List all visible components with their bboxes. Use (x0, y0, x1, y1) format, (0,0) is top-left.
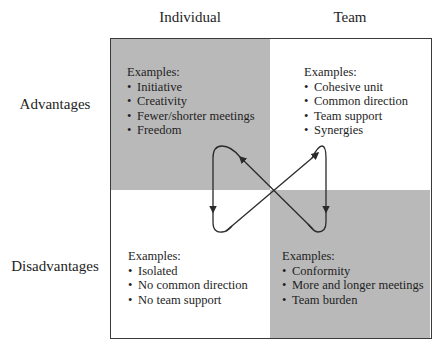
list-item: More and longer meetings (282, 278, 424, 293)
examples-team-disadvantages: Examples: Conformity More and longer mee… (282, 249, 424, 307)
list-item: No team support (128, 293, 248, 308)
examples-title: Examples: (128, 249, 248, 264)
examples-list: Conformity More and longer meetings Team… (282, 264, 424, 308)
examples-individual-advantages: Examples: Initiative Creativity Fewer/sh… (127, 65, 255, 138)
list-item: Initiative (127, 80, 255, 95)
row-header-disadvantages: Disadvantages (0, 258, 110, 275)
list-item: Creativity (127, 94, 255, 109)
list-item: Isolated (128, 264, 248, 279)
list-item: No common direction (128, 278, 248, 293)
list-item: Team burden (282, 293, 424, 308)
list-item: Common direction (304, 94, 408, 109)
examples-list: Cohesive unit Common direction Team supp… (304, 80, 408, 138)
examples-title: Examples: (304, 65, 408, 80)
examples-team-advantages: Examples: Cohesive unit Common direction… (304, 65, 408, 138)
list-item: Cohesive unit (304, 80, 408, 95)
examples-list: Isolated No common direction No team sup… (128, 264, 248, 308)
list-item: Team support (304, 109, 408, 124)
examples-title: Examples: (282, 249, 424, 264)
column-header-individual: Individual (110, 9, 270, 26)
examples-list: Initiative Creativity Fewer/shorter meet… (127, 80, 255, 138)
column-header-team: Team (270, 9, 430, 26)
list-item: Conformity (282, 264, 424, 279)
examples-individual-disadvantages: Examples: Isolated No common direction N… (128, 249, 248, 307)
list-item: Freedom (127, 123, 255, 138)
row-header-advantages: Advantages (0, 96, 110, 113)
list-item: Fewer/shorter meetings (127, 109, 255, 124)
examples-title: Examples: (127, 65, 255, 80)
list-item: Synergies (304, 123, 408, 138)
